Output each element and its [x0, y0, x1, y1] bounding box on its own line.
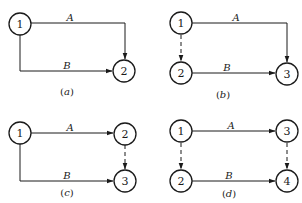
panel-caption-d: (d): [222, 188, 236, 199]
node-3: 3: [114, 170, 136, 192]
edge-label-b: B: [62, 170, 70, 181]
svg-text:3: 3: [284, 125, 291, 138]
svg-text:4: 4: [284, 175, 291, 188]
node-2: 2: [113, 60, 135, 82]
svg-text:3: 3: [284, 68, 291, 81]
panel-b: A B 1 2 3 (b): [170, 12, 298, 100]
svg-text:2: 2: [178, 175, 185, 188]
svg-text:2: 2: [122, 128, 129, 141]
node-2: 2: [170, 170, 192, 192]
node-1: 1: [170, 120, 192, 142]
edge-label-b: B: [222, 62, 230, 73]
node-3: 3: [276, 63, 298, 85]
svg-text:1: 1: [178, 125, 185, 138]
node-2: 2: [114, 123, 136, 145]
node-1: 1: [170, 12, 192, 34]
edge-label-b: B: [62, 60, 70, 71]
panel-caption-b: (b): [216, 89, 230, 100]
network-diagram: A B 1 2 (a) A B 1 2 3 (b): [0, 0, 302, 203]
panel-caption-a: (a): [60, 86, 74, 97]
edge-label-a: A: [65, 122, 73, 133]
node-2: 2: [170, 62, 192, 84]
svg-text:2: 2: [121, 65, 128, 78]
node-1: 1: [9, 122, 31, 144]
svg-text:1: 1: [17, 127, 24, 140]
panel-c: A B 1 2 3 (c): [9, 122, 136, 198]
panel-d: A B 1 2 3 4 (d): [170, 120, 298, 199]
edge-label-a: A: [231, 12, 239, 23]
edge-b-activity-a: [192, 23, 287, 62]
node-3: 3: [276, 120, 298, 142]
edge-label-a: A: [226, 120, 234, 131]
svg-text:1: 1: [17, 18, 24, 31]
svg-text:3: 3: [122, 175, 129, 188]
svg-text:1: 1: [178, 17, 185, 30]
edge-a-activity-a: [31, 23, 125, 59]
edge-label-a: A: [65, 12, 73, 23]
edge-label-b: B: [224, 170, 232, 181]
node-4: 4: [276, 170, 298, 192]
panel-caption-c: (c): [60, 187, 74, 198]
svg-text:2: 2: [178, 67, 185, 80]
panel-a: A B 1 2 (a): [9, 12, 135, 97]
node-1: 1: [9, 13, 31, 35]
